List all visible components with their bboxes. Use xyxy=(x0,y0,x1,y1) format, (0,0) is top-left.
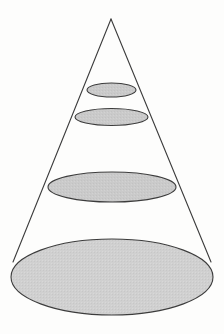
cross-section-ellipse-1 xyxy=(87,83,136,97)
cross-sections xyxy=(48,83,176,202)
cross-section-ellipse-2 xyxy=(75,109,148,126)
base-ellipse xyxy=(11,239,213,315)
cone-base xyxy=(11,239,213,315)
cone-left-slant-line xyxy=(13,19,111,262)
cone-diagram-figure xyxy=(0,0,224,334)
cone-right-slant-line xyxy=(111,19,211,262)
cross-section-ellipse-3 xyxy=(48,172,176,202)
cone-diagram-canvas xyxy=(0,0,224,334)
cone-outline xyxy=(13,19,211,262)
